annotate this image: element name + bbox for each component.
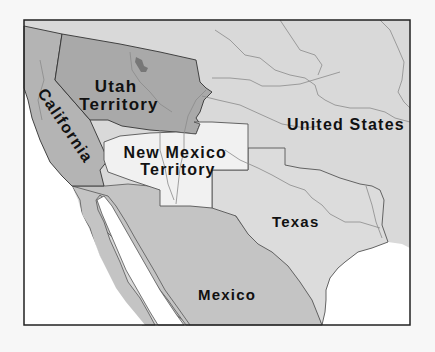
label-united-states: United States [287,116,405,133]
label-mexico: Mexico [198,286,256,303]
territorial-map: Utah Territory California New Mexico Ter… [0,0,435,352]
label-texas: Texas [272,213,319,230]
